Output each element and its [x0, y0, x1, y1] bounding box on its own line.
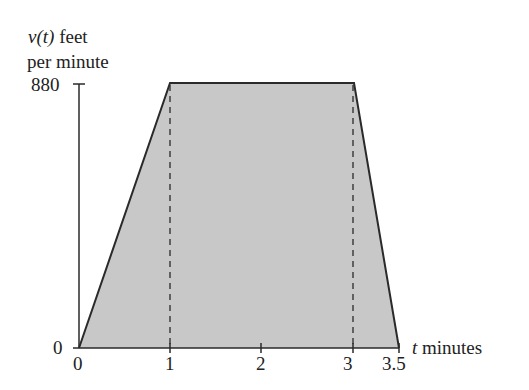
y-axis-label-line2: per minute	[27, 52, 109, 72]
area-under-curve	[79, 83, 399, 348]
y-axis-variable: v(t)	[28, 26, 54, 47]
x-tick-label-1: 1	[165, 354, 175, 374]
y-tick-label-0: 0	[53, 338, 63, 358]
y-axis-label-line1: v(t) feet	[28, 27, 88, 47]
x-tick-label-3: 3	[343, 354, 353, 374]
x-tick-label-2: 2	[256, 354, 266, 374]
y-axis-unit: feet	[54, 26, 87, 47]
x-tick-label-3-5: 3.5	[382, 354, 406, 374]
x-axis-label: t minutes	[412, 338, 482, 358]
y-tick-label-880: 880	[31, 75, 60, 95]
x-tick-label-0: 0	[73, 354, 83, 374]
x-axis-unit: minutes	[417, 337, 482, 358]
